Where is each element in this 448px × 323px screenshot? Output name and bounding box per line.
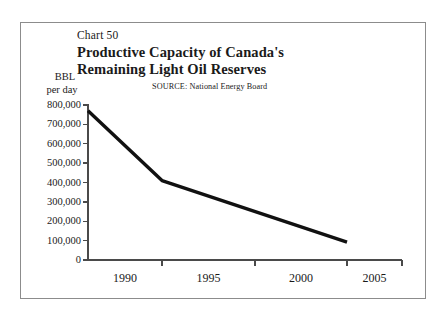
plot-area	[0, 0, 448, 323]
chart-figure: Chart 50 Productive Capacity of Canada's…	[0, 0, 448, 323]
data-series-line	[88, 111, 347, 242]
axis-lines	[88, 104, 402, 260]
x-axis-tick-marks	[162, 260, 402, 266]
series-line	[88, 111, 347, 242]
